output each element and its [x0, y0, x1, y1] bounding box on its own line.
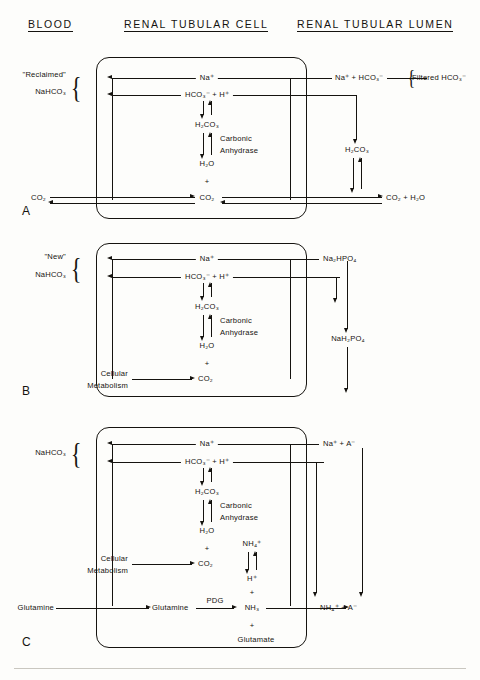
- equil-down-a1: [203, 101, 204, 115]
- co2-line-bottom-a: [50, 203, 195, 204]
- new-nahco3-label-b: NaHCO₃: [35, 271, 66, 279]
- panel-letter-b: B: [22, 385, 31, 397]
- panel-letter-a: A: [22, 205, 31, 217]
- glutamate-label-c: Glutamate: [238, 636, 275, 644]
- filtered-hco3-label-a: Filtered HCO₃⁻: [412, 74, 466, 82]
- equil-down-head-a1: [200, 114, 204, 119]
- header-renal-tubular-cell: RENAL TUBULAR CELL: [124, 18, 268, 32]
- equil-up-head-a2: [208, 132, 212, 137]
- metabolism-arrow-line-b: [132, 379, 192, 380]
- plus-label-a: +: [205, 178, 210, 186]
- h-secretion-vertical-c: [316, 462, 317, 593]
- h-secretion-line-c: [290, 462, 316, 463]
- equil-up-head-c1: [208, 467, 212, 472]
- na-label-c: Na⁺: [196, 440, 218, 448]
- blood-co2-label-a: CO₂: [31, 194, 46, 202]
- cell-right-rail-c: [290, 444, 291, 606]
- nh-equil-down-c: [248, 552, 249, 570]
- nah2po4-excretion-arrow-b: [344, 388, 348, 393]
- equil-down-a2: [203, 133, 204, 155]
- anhydrase-label-b: Anhydrase: [220, 329, 258, 337]
- nah2po4-excretion-line-b: [347, 347, 348, 389]
- lumen-na-hco3-label-a: Na⁺ + HCO₃⁻: [332, 74, 387, 82]
- equil-down-b1: [203, 283, 204, 297]
- nh3-label-c: NH₃: [242, 604, 263, 612]
- co2-line-top-a: [50, 197, 195, 198]
- hco3-h-label-c: HCO₃⁻ + H⁺: [181, 458, 233, 466]
- hco3-h-label-a: HCO₃⁻ + H⁺: [181, 91, 233, 99]
- blood-glutamine-label-c: Glutamine: [18, 604, 54, 612]
- metabolism-label-c: Metabolism: [87, 567, 128, 575]
- cell-co2-label-c: CO₂: [198, 560, 213, 568]
- diagram-page: BLOOD RENAL TUBULAR CELL RENAL TUBULAR L…: [0, 0, 480, 680]
- nh-plus-sign-c: +: [250, 589, 255, 597]
- equil-up-head-b1: [208, 282, 212, 287]
- panel-letter-c: C: [22, 636, 31, 648]
- lumen-co2-h2o-label-a: CO₂ + H₂O: [386, 194, 425, 202]
- co2-lumen-line-bottom-a: [222, 203, 382, 204]
- anion-excretion-line-c: [362, 448, 363, 593]
- reclaimed-brace-a: {: [71, 72, 82, 102]
- cell-left-rail-a: [112, 78, 113, 200]
- co2-lumen-line-top-a: [222, 197, 382, 198]
- co2-arrow-out-a: [48, 200, 53, 204]
- equil-down-b2: [203, 315, 204, 337]
- pdg-label-c: PDG: [206, 597, 223, 605]
- metabolism-arrowhead-c: [190, 561, 195, 565]
- nahco3-label-c: NaHCO₃: [35, 449, 66, 457]
- cell-left-rail-c: [112, 444, 113, 606]
- lumen-equil-down-a: [353, 158, 354, 189]
- lumen-nah2po4-label-b: NaH₂PO₄: [331, 335, 365, 343]
- nh-equil-up-head-c: [253, 551, 257, 556]
- glutamine-uptake-line-c: [56, 608, 149, 609]
- lumen-na2hpo4-label-b: Na₂HPO₄: [323, 255, 357, 263]
- header-renal-tubular-lumen: RENAL TUBULAR LUMEN: [297, 18, 453, 32]
- h-secretion-arrow-c: [313, 592, 317, 597]
- nahco3-brace-c: {: [71, 438, 82, 468]
- co2-lumen-arrow-back-a: [220, 200, 225, 204]
- header-blood: BLOOD: [28, 18, 73, 32]
- reclaimed-nahco3-label-a: NaHCO₃: [35, 88, 66, 96]
- anhydrase-label-c: Anhydrase: [220, 514, 258, 522]
- reclaimed-label-a: "Reclaimed": [23, 71, 66, 79]
- equil-down-head-c1: [200, 481, 204, 486]
- h-secretion-arrow-b: [333, 298, 337, 303]
- cell-left-rail-b: [112, 259, 113, 379]
- new-brace-b: {: [71, 253, 82, 283]
- cell-co2-label-b: CO₂: [198, 375, 213, 383]
- cell-co2-label-a: CO₂: [196, 194, 219, 202]
- h-secretion-line-a: [290, 95, 356, 96]
- equil-down-c1: [203, 468, 204, 482]
- carbonic-label-a: Carbonic: [220, 135, 252, 143]
- co2-arrow-in-a: [190, 194, 195, 198]
- carbonic-label-c: Carbonic: [220, 502, 252, 510]
- glutamine-uptake-arrow-c: [146, 605, 151, 609]
- lumen-equil-down-head-a: [350, 188, 354, 193]
- carbonic-label-b: Carbonic: [220, 317, 252, 325]
- hco3-h-label-b: HCO₃⁻ + H⁺: [181, 273, 233, 281]
- glutamate-plus-sign-c: +: [250, 622, 255, 630]
- pdg-arrowhead-c: [232, 605, 237, 609]
- h2o-label-c: H₂O: [200, 527, 215, 535]
- new-label-b: "New": [44, 253, 66, 261]
- na-label-a: Na⁺: [196, 74, 218, 82]
- na-label-b: Na⁺: [196, 255, 218, 263]
- footer-rule: [14, 668, 466, 669]
- h2co3-label-a: H₂CO₃: [195, 121, 219, 129]
- metabolism-arrow-line-c: [132, 564, 192, 565]
- equil-up-head-a1: [208, 100, 212, 105]
- co2-lumen-arrow-a: [378, 194, 383, 198]
- h-secretion-arrow-a: [353, 139, 357, 144]
- metabolism-arrowhead-b: [190, 376, 195, 380]
- equil-up-head-b2: [208, 314, 212, 319]
- equil-down-head-b1: [200, 296, 204, 301]
- anion-excretion-arrow-c: [359, 592, 363, 597]
- h2o-label-a: H₂O: [200, 160, 215, 168]
- plus-label-b: +: [205, 360, 210, 368]
- equil-down-c2: [203, 500, 204, 522]
- h2co3-label-b: H₂CO₃: [195, 303, 219, 311]
- lumen-nh4-a-label-c: NH₄⁺ + A⁻: [320, 604, 357, 612]
- h-secretion-vertical-a: [356, 95, 357, 140]
- cellular-label-c: Cellular: [101, 555, 128, 563]
- h-plus-label-c: H⁺: [247, 575, 257, 583]
